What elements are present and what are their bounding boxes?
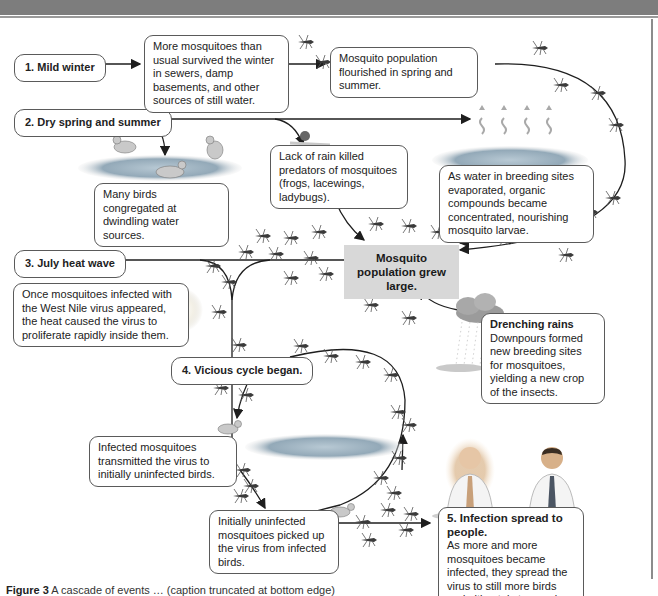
step-infection-spread-people: 5. Infection spread to people. xyxy=(447,512,575,539)
note-predators-killed: Lack of rain killed predators of mosquit… xyxy=(270,145,408,209)
note-water-evaporated: As water in breeding sites evaporated, o… xyxy=(439,165,594,243)
step-vicious-cycle: 4. Vicious cycle began. xyxy=(171,357,313,385)
person-icon xyxy=(445,438,575,515)
note-drenching-rains: Drenching rains Downpours formed new bre… xyxy=(481,313,605,404)
note-birds-congregated: Many birds congregated at dwindling wate… xyxy=(94,183,229,247)
note-spread-to-people: 5. Infection spread to people. As more a… xyxy=(438,507,584,596)
step-mild-winter: 1. Mild winter xyxy=(14,54,106,82)
step-dry-spring-summer: 2. Dry spring and summer xyxy=(14,109,172,137)
caption-label: Figure 3 xyxy=(6,584,49,596)
drenching-rains-body: Downpours formed new breeding sites for … xyxy=(490,332,584,398)
note-population-flourished: Mosquito population flourished in spring… xyxy=(330,47,478,98)
caption-text: A cascade of events … (caption truncated… xyxy=(51,584,335,596)
note-heat-virus: Once mosquitoes infected with the West N… xyxy=(13,283,189,347)
center-population-grew-large: Mosquito population grew large. xyxy=(344,245,459,299)
drenching-rains-title: Drenching rains xyxy=(490,318,596,332)
step-july-heat-wave: 3. July heat wave xyxy=(14,250,126,278)
note-winter-survival: More mosquitoes than usual survived the … xyxy=(144,35,289,113)
note-mosquitoes-to-birds: Infected mosquitoes transmitted the viru… xyxy=(89,436,237,487)
note-birds-to-mosquitoes: Initially uninfected mosquitoes picked u… xyxy=(209,510,339,574)
figure-caption: Figure 3 A cascade of events … (caption … xyxy=(6,584,656,596)
